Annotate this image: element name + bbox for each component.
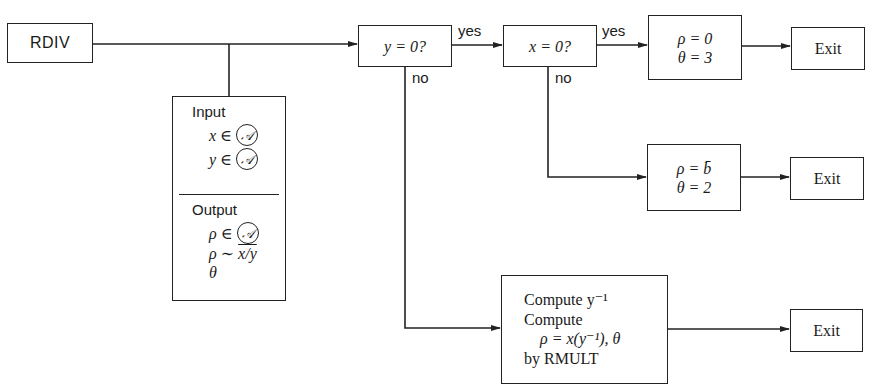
result-zero: ρ = 0 θ = 3	[648, 15, 742, 80]
yes-label: yes	[458, 22, 481, 39]
io-spec-box: Input x ∈ 𝒜 y ∈ 𝒜 Output ρ ∈ 𝒜 ρ ∼ x/y θ	[172, 96, 286, 301]
decision-x-zero: x = 0?	[503, 25, 597, 67]
no-label: no	[412, 69, 429, 86]
input-heading: Input	[192, 103, 225, 120]
start-node-rdiv: RDIV	[7, 23, 93, 63]
io-divider	[179, 194, 279, 195]
exit-node: Exit	[791, 27, 865, 70]
result-bbar: ρ = b̄ θ = 2	[647, 144, 741, 211]
output-theta: θ	[209, 263, 217, 282]
output-rho-set: ρ ∈ 𝒜	[209, 222, 259, 244]
input-y: y ∈ 𝒜	[209, 148, 258, 170]
no-label: no	[555, 69, 572, 86]
compute-line-4: by RMULT	[524, 349, 599, 368]
compute-line-2: Compute	[524, 310, 583, 329]
output-heading: Output	[192, 201, 237, 218]
compute-line-3: ρ = x(y⁻¹), θ	[540, 329, 620, 348]
input-x: x ∈ 𝒜	[209, 124, 258, 146]
compute-box: Compute y⁻¹ Compute ρ = x(y⁻¹), θ by RMU…	[501, 275, 668, 384]
decision-y-zero: y = 0?	[358, 25, 452, 67]
exit-node: Exit	[790, 309, 863, 352]
decision-label: y = 0?	[384, 37, 426, 56]
yes-label: yes	[602, 22, 625, 39]
output-rho-approx: ρ ∼ x/y	[209, 244, 257, 263]
start-label: RDIV	[30, 34, 70, 52]
exit-node: Exit	[790, 157, 864, 200]
set-a-icon: 𝒜	[236, 124, 258, 146]
compute-line-1: Compute y⁻¹	[524, 290, 608, 309]
set-a-icon: 𝒜	[236, 148, 258, 170]
decision-label: x = 0?	[529, 37, 571, 56]
set-a-icon: 𝒜	[237, 222, 259, 244]
